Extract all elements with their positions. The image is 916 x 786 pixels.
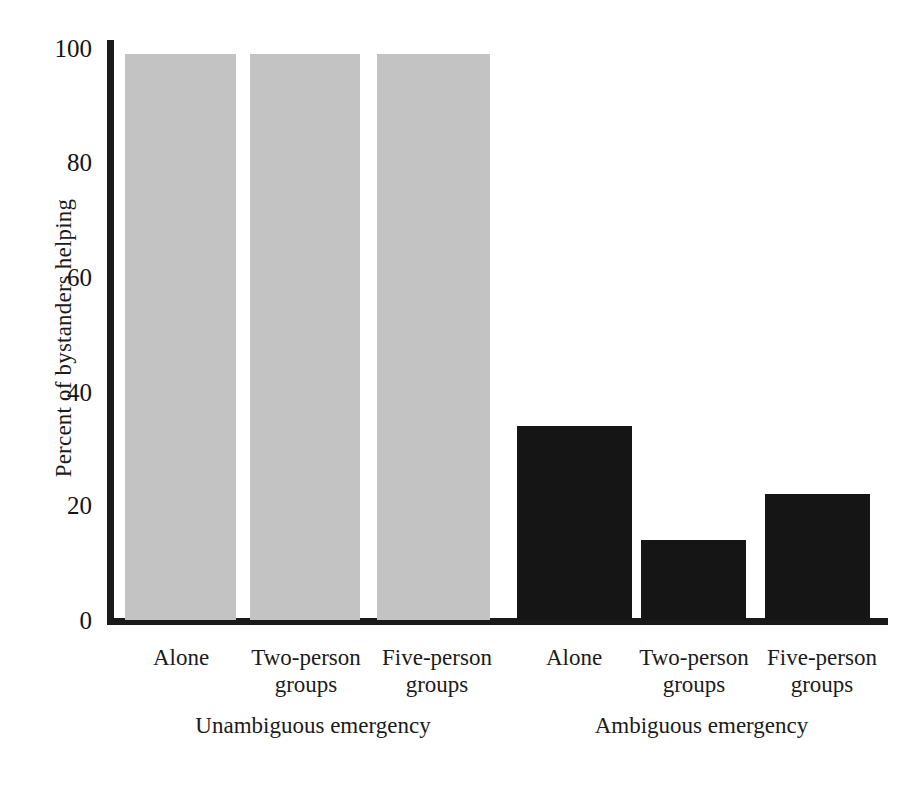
x-tick-label-line1: Five-person [382, 645, 492, 670]
bar-unambiguous-two-person[interactable] [250, 54, 360, 620]
bar-unambiguous-alone[interactable] [125, 54, 236, 620]
bar-chart-figure: Percent of bystanders helping 100 80 60 … [0, 0, 916, 786]
bar-ambiguous-alone[interactable] [517, 426, 632, 620]
x-tick-label-line1: Alone [546, 645, 602, 670]
group-label-ambiguous-emergency: Ambiguous emergency [513, 713, 890, 739]
x-tick-label-ambiguous-two-person: Two-person groups [626, 645, 762, 698]
x-tick-label-line1: Two-person [251, 645, 361, 670]
x-tick-label-line2: groups [754, 672, 890, 699]
x-tick-label-unambiguous-five-person: Five-person groups [369, 645, 505, 698]
bar-ambiguous-five-person[interactable] [765, 494, 870, 620]
x-tick-label-unambiguous-two-person: Two-person groups [238, 645, 374, 698]
x-tick-label-ambiguous-five-person: Five-person groups [754, 645, 890, 698]
group-label-unambiguous-emergency: Unambiguous emergency [120, 713, 506, 739]
x-tick-label-line2: groups [626, 672, 762, 699]
x-tick-label-line1: Five-person [767, 645, 877, 670]
x-tick-label-unambiguous-alone: Alone [120, 645, 242, 672]
x-tick-label-line2: groups [369, 672, 505, 699]
x-tick-label-ambiguous-alone: Alone [513, 645, 635, 672]
x-tick-label-line2: groups [238, 672, 374, 699]
x-tick-label-line1: Two-person [639, 645, 749, 670]
bar-unambiguous-five-person[interactable] [377, 54, 490, 620]
x-tick-label-line1: Alone [153, 645, 209, 670]
bar-ambiguous-two-person[interactable] [641, 540, 746, 620]
